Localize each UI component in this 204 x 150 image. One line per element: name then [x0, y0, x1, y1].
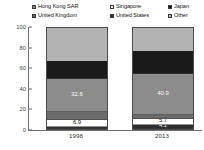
legend-label-japan: Japan	[174, 4, 189, 10]
bar-segment-2013-japan[interactable]	[133, 51, 193, 73]
stacked-bar-1998[interactable]: 6.932.6	[46, 27, 108, 130]
bar-segment-2013-united-kingdom[interactable]	[133, 115, 193, 119]
bar-segment-value-1998-singapore: 6.9	[73, 120, 81, 126]
y-axis-tick-mark-40	[29, 88, 32, 89]
y-axis-tick-mark-20	[29, 109, 32, 110]
bar-segment-1998-united-states[interactable]	[47, 127, 107, 129]
chart-legend: Hong Kong SAR Singapore Japan United Kin…	[32, 2, 198, 20]
bar-segment-1998-japan[interactable]	[47, 61, 107, 79]
legend-label-singapore: Singapore	[116, 4, 141, 10]
bar-segment-value-2013-hong-kong-sar: 40.9	[157, 91, 168, 97]
legend-label-united-states: United States	[116, 13, 149, 19]
legend-swatch-other	[168, 14, 172, 18]
y-axis-tick-mark-100	[29, 27, 32, 28]
legend-item-singapore: Singapore	[110, 4, 168, 10]
bar-segment-value-1998-hong-kong-sar: 32.6	[71, 92, 82, 98]
y-axis-tick-label-80: 80	[20, 45, 29, 51]
x-axis-label-1998: 1998	[45, 132, 107, 139]
stacked-bar-2013[interactable]: 4.15.740.9	[132, 27, 194, 130]
bar-segment-1998-hong-kong-sar[interactable]: 32.6	[47, 79, 107, 112]
y-axis-tick-label-40: 40	[20, 86, 29, 92]
y-axis-tick-label-60: 60	[20, 65, 29, 71]
y-axis-tick-mark-0	[29, 130, 32, 131]
legend-swatch-japan	[168, 5, 172, 9]
legend-item-other: Other	[168, 13, 198, 19]
bar-segment-2013-singapore[interactable]: 5.7	[133, 119, 193, 125]
legend-label-hong-kong-sar: Hong Kong SAR	[38, 4, 78, 10]
legend-swatch-singapore	[110, 5, 114, 9]
legend-item-japan: Japan	[168, 4, 198, 10]
y-axis-tick-mark-60	[29, 68, 32, 69]
x-axis-line	[28, 130, 202, 131]
legend-label-other: Other	[174, 13, 188, 19]
bar-segment-1998-united-kingdom[interactable]	[47, 112, 107, 120]
y-axis-tick-label-20: 20	[20, 106, 29, 112]
bar-segment-1998-other[interactable]	[47, 28, 107, 61]
legend-swatch-united-states	[110, 14, 114, 18]
bar-segment-2013-hong-kong-sar[interactable]: 40.9	[133, 74, 193, 115]
legend-swatch-united-kingdom	[32, 14, 36, 18]
legend-swatch-hong-kong-sar	[32, 5, 36, 9]
legend-label-united-kingdom: United Kingdom	[38, 13, 77, 19]
plot-area: 0204060801006.932.64.15.740.9	[28, 27, 200, 130]
bar-segment-1998-singapore[interactable]: 6.9	[47, 120, 107, 127]
legend-item-united-kingdom: United Kingdom	[32, 13, 110, 19]
y-axis-tick-label-100: 100	[16, 24, 29, 30]
legend-item-united-states: United States	[110, 13, 168, 19]
bar-segment-2013-other[interactable]	[133, 28, 193, 51]
x-axis-label-2013: 2013	[131, 132, 193, 139]
stacked-bar-chart: Hong Kong SAR Singapore Japan United Kin…	[0, 0, 204, 150]
bar-segment-2013-united-states[interactable]: 4.1	[133, 125, 193, 129]
bar-segment-value-2013-singapore: 5.7	[159, 118, 167, 124]
y-axis-tick-mark-80	[29, 47, 32, 48]
legend-item-hong-kong-sar: Hong Kong SAR	[32, 4, 110, 10]
